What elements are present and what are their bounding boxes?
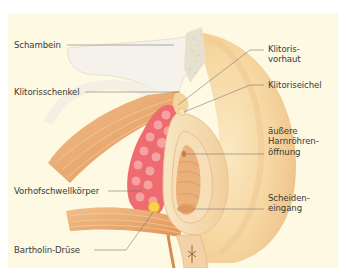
label-klitorisvorhaut: Klitoris- vorhaut: [268, 44, 301, 65]
bartholin-gland: [149, 202, 160, 213]
diagram-panel: Schambein Klitorisschenkel Vorhofschwell…: [8, 13, 338, 268]
label-scheideneingang: Scheiden- eingang: [268, 193, 310, 214]
label-klitoriseichel: Klitoriseichel: [268, 80, 322, 90]
label-aeussere-harnroehrenoeffnung: äußere Harnröhren- öffnung: [268, 126, 319, 157]
label-vorhofschwellkoerper: Vorhofschwellkörper: [14, 186, 99, 196]
perineum: [168, 235, 208, 268]
label-harnroehre-line3: öffnung: [268, 147, 319, 157]
label-scheideneingang-line1: Scheiden-: [268, 193, 310, 203]
urethral-opening: [182, 151, 186, 157]
label-klitorisschenkel: Klitorisschenkel: [14, 87, 80, 97]
vaginal-introitus: [177, 205, 195, 213]
label-scheideneingang-line2: eingang: [268, 203, 310, 213]
label-bartholin-druese: Bartholin-Drüse: [14, 245, 80, 255]
label-schambein: Schambein: [14, 40, 61, 50]
label-klitorisvorhaut-line1: Klitoris-: [268, 44, 301, 54]
vestibule: [163, 113, 228, 235]
label-harnroehre-line2: Harnröhren-: [268, 136, 319, 146]
label-harnroehre-line1: äußere: [268, 126, 319, 136]
label-klitorisvorhaut-line2: vorhaut: [268, 54, 301, 64]
